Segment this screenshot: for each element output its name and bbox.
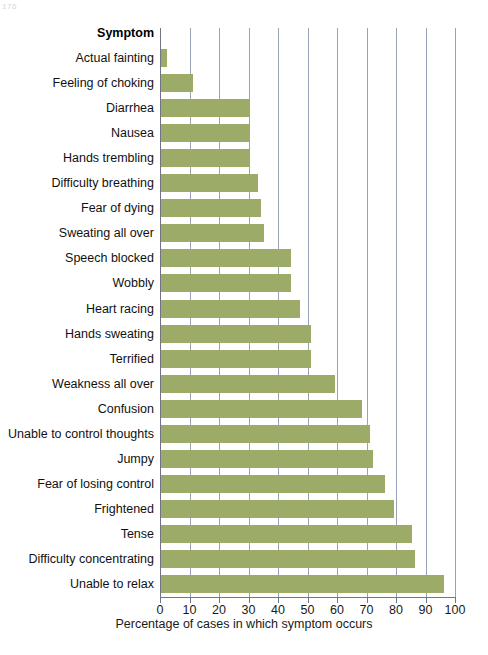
bar-fear-of-dying — [161, 199, 261, 217]
bar-row: Unable to relax — [0, 572, 488, 596]
bar-row: Unable to control thoughts — [0, 422, 488, 446]
bar-unable-to-relax — [161, 575, 444, 593]
bar-label-unable-to-control-thoughts: Unable to control thoughts — [0, 422, 154, 446]
bar-label-nausea: Nausea — [0, 121, 154, 145]
bar-tense — [161, 525, 412, 543]
bar-chart-figure: 176 Symptom 0102030405060708090100 Perce… — [0, 0, 488, 655]
bar-sweating-all-over — [161, 224, 264, 242]
bar-frightened — [161, 500, 394, 518]
bar-row: Frightened — [0, 497, 488, 521]
bar-row: Diarrhea — [0, 96, 488, 120]
bar-row: Tense — [0, 522, 488, 546]
bar-label-weakness-all-over: Weakness all over — [0, 372, 154, 396]
bar-row: Hands trembling — [0, 146, 488, 170]
bar-label-fear-of-losing-control: Fear of losing control — [0, 472, 154, 496]
bar-label-terrified: Terrified — [0, 347, 154, 371]
bar-label-hands-sweating: Hands sweating — [0, 322, 154, 346]
bar-label-confusion: Confusion — [0, 397, 154, 421]
bar-label-frightened: Frightened — [0, 497, 154, 521]
bar-rows: Actual faintingFeeling of chokingDiarrhe… — [0, 0, 488, 655]
bar-row: Hands sweating — [0, 322, 488, 346]
bar-difficulty-breathing — [161, 174, 258, 192]
bar-label-difficulty-breathing: Difficulty breathing — [0, 171, 154, 195]
bar-weakness-all-over — [161, 375, 335, 393]
bar-label-hands-trembling: Hands trembling — [0, 146, 154, 170]
bar-label-feeling-of-choking: Feeling of choking — [0, 71, 154, 95]
bar-label-heart-racing: Heart racing — [0, 297, 154, 321]
bar-speech-blocked — [161, 249, 291, 267]
bar-unable-to-control-thoughts — [161, 425, 370, 443]
bar-feeling-of-choking — [161, 74, 193, 92]
bar-row: Fear of losing control — [0, 472, 488, 496]
bar-row: Heart racing — [0, 297, 488, 321]
bar-row: Sweating all over — [0, 221, 488, 245]
bar-label-jumpy: Jumpy — [0, 447, 154, 471]
bar-row: Speech blocked — [0, 246, 488, 270]
bar-confusion — [161, 400, 362, 418]
bar-row: Difficulty concentrating — [0, 547, 488, 571]
bar-label-difficulty-concentrating: Difficulty concentrating — [0, 547, 154, 571]
bar-row: Actual fainting — [0, 46, 488, 70]
bar-label-diarrhea: Diarrhea — [0, 96, 154, 120]
bar-row: Difficulty breathing — [0, 171, 488, 195]
bar-actual-fainting — [161, 49, 167, 67]
bar-row: Terrified — [0, 347, 488, 371]
bar-row: Weakness all over — [0, 372, 488, 396]
bar-label-tense: Tense — [0, 522, 154, 546]
bar-fear-of-losing-control — [161, 475, 385, 493]
bar-hands-trembling — [161, 149, 250, 167]
bar-row: Confusion — [0, 397, 488, 421]
bar-label-unable-to-relax: Unable to relax — [0, 572, 154, 596]
bar-diarrhea — [161, 99, 250, 117]
bar-label-actual-fainting: Actual fainting — [0, 46, 154, 70]
bar-terrified — [161, 350, 311, 368]
bar-label-sweating-all-over: Sweating all over — [0, 221, 154, 245]
bar-difficulty-concentrating — [161, 550, 415, 568]
bar-hands-sweating — [161, 325, 311, 343]
bar-row: Fear of dying — [0, 196, 488, 220]
bar-jumpy — [161, 450, 373, 468]
bar-heart-racing — [161, 300, 300, 318]
bar-label-speech-blocked: Speech blocked — [0, 246, 154, 270]
bar-row: Nausea — [0, 121, 488, 145]
bar-label-wobbly: Wobbly — [0, 271, 154, 295]
bar-row: Wobbly — [0, 271, 488, 295]
bar-label-fear-of-dying: Fear of dying — [0, 196, 154, 220]
bar-row: Jumpy — [0, 447, 488, 471]
bar-wobbly — [161, 274, 291, 292]
bar-row: Feeling of choking — [0, 71, 488, 95]
bar-nausea — [161, 124, 250, 142]
